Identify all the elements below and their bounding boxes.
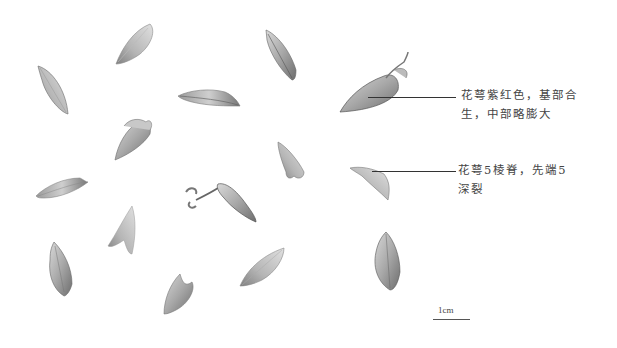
leader-line-2 [372, 171, 456, 172]
calyx-10 [50, 242, 72, 296]
calyx-12 [164, 274, 193, 314]
calyx-6 [278, 142, 304, 178]
calyx-13 [340, 52, 408, 112]
calyx-3 [178, 90, 240, 106]
scale-bar [433, 319, 470, 320]
annotation-2-line2: 深裂 [458, 180, 568, 199]
calyx-8 [186, 184, 256, 222]
calyx-15 [375, 232, 400, 290]
calyx-4 [266, 30, 296, 80]
calyx-2 [38, 66, 68, 114]
calyx-11 [240, 248, 284, 286]
annotation-1-line1: 花萼紫红色，基部合 [461, 86, 578, 105]
leader-line-1 [368, 97, 456, 98]
calyx-14 [350, 167, 389, 200]
scale-bar-label: 1cm [438, 305, 454, 315]
annotation-1-line2: 生，中部略膨大 [461, 105, 578, 124]
annotation-1: 花萼紫红色，基部合 生，中部略膨大 [461, 86, 578, 124]
calyx-9 [108, 206, 135, 254]
calyx-7 [36, 178, 88, 198]
specimen-plate: 花萼紫红色，基部合 生，中部略膨大 花萼5棱脊，先端5 深裂 1cm [0, 0, 617, 348]
annotation-2-line1: 花萼5棱脊，先端5 [458, 161, 568, 180]
calyx-1 [116, 24, 153, 64]
annotation-2: 花萼5棱脊，先端5 深裂 [458, 161, 568, 199]
calyx-5 [115, 119, 152, 160]
